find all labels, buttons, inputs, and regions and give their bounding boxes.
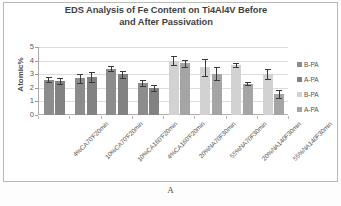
error-bar <box>243 47 253 115</box>
x-axis-tick-mark <box>38 116 39 119</box>
error-bar <box>106 47 116 115</box>
error-bar <box>55 47 65 115</box>
chart-legend: B-PAA-PAB-PAA-PA <box>297 58 339 118</box>
error-bar-line <box>279 90 280 98</box>
error-bar-line <box>122 71 123 78</box>
error-bar-cap-bottom <box>265 79 271 80</box>
x-axis-tick-mark <box>226 116 227 119</box>
error-bar <box>180 47 190 115</box>
x-axis-tick-mark <box>69 116 70 119</box>
error-bar-line <box>216 67 217 79</box>
y-axis-tick-label: 3 <box>20 70 34 78</box>
error-bar-cap-bottom <box>233 67 239 68</box>
error-bar-cap-bottom <box>120 78 126 79</box>
error-bar-line <box>185 60 186 67</box>
legend-swatch-icon <box>297 77 302 82</box>
error-bar-cap-top <box>265 69 271 70</box>
error-bar <box>149 47 159 115</box>
error-bar-cap-bottom <box>245 85 251 86</box>
legend-label: A-PA <box>304 76 319 83</box>
chart-title-line-2: and After Passivation <box>16 17 316 29</box>
error-bar <box>169 47 179 115</box>
figure-caption: A <box>0 185 341 195</box>
x-axis-tick-mark <box>288 116 289 119</box>
x-axis-tick-mark <box>101 116 102 119</box>
error-bar-cap-top <box>202 59 208 60</box>
legend-item: B-PA <box>297 58 339 71</box>
error-bar-cap-bottom <box>171 65 177 66</box>
error-bar <box>118 47 128 115</box>
error-bar-cap-top <box>120 71 126 72</box>
legend-swatch-icon <box>297 92 302 97</box>
y-axis-tick-label: 0 <box>20 111 34 119</box>
error-bar-cap-bottom <box>151 91 157 92</box>
error-bar <box>44 47 54 115</box>
legend-swatch-icon <box>297 62 302 67</box>
error-bar-cap-bottom <box>89 82 95 83</box>
chart-title-line-1: EDS Analysis of Fe Content on Ti4Al4V Be… <box>16 5 316 17</box>
error-bar <box>263 47 273 115</box>
error-bar <box>231 47 241 115</box>
error-bar-cap-top <box>245 82 251 83</box>
legend-swatch-icon <box>297 107 302 112</box>
legend-item: A-PA <box>297 103 339 116</box>
error-bar-cap-top <box>171 56 177 57</box>
error-bar <box>87 47 97 115</box>
error-bar-cap-bottom <box>140 86 146 87</box>
legend-label: B-PA <box>304 91 319 98</box>
error-bar-cap-bottom <box>276 98 282 99</box>
chart-title: EDS Analysis of Fe Content on Ti4Al4V Be… <box>16 5 316 28</box>
error-bar-cap-top <box>46 77 52 78</box>
error-bar-cap-top <box>276 90 282 91</box>
x-axis-tick-label: 4%CA70'F20min <box>71 120 109 158</box>
x-axis-tick-mark <box>194 116 195 119</box>
x-axis-tick-mark <box>163 116 164 119</box>
x-axis-tick-labels: 4%CA70'F20min10%CA70'F20min10%CA160'F20m… <box>38 116 290 182</box>
plot-inner <box>39 47 288 115</box>
error-bar-cap-bottom <box>182 67 188 68</box>
error-bar <box>75 47 85 115</box>
error-bar-cap-bottom <box>108 71 114 72</box>
error-bar-cap-bottom <box>214 80 220 81</box>
error-bar-cap-bottom <box>46 82 52 83</box>
figure-panel: EDS Analysis of Fe Content on Ti4Al4V Be… <box>0 0 341 206</box>
legend-item: A-PA <box>297 73 339 86</box>
y-axis-tick-label: 5 <box>20 43 34 51</box>
error-bar-cap-top <box>214 67 220 68</box>
error-bar <box>212 47 222 115</box>
error-bar-cap-top <box>77 74 83 75</box>
error-bar-line <box>173 56 174 66</box>
y-axis-tick-label: 2 <box>20 84 34 92</box>
error-bar <box>138 47 148 115</box>
error-bar-cap-bottom <box>77 83 83 84</box>
error-bar-cap-top <box>89 72 95 73</box>
error-bar-line <box>142 80 143 87</box>
x-axis-tick-mark <box>132 116 133 119</box>
y-axis-tick-label: 4 <box>20 57 34 65</box>
error-bar-cap-top <box>57 78 63 79</box>
error-bar-line <box>80 74 81 84</box>
x-axis-tick-mark <box>257 116 258 119</box>
legend-label: A-PA <box>304 106 319 113</box>
legend-item: B-PA <box>297 88 339 101</box>
error-bar-line <box>91 72 92 82</box>
legend-label: B-PA <box>304 61 319 68</box>
y-axis-tick-label: 1 <box>20 97 34 105</box>
error-bar-cap-top <box>108 66 114 67</box>
plot-area <box>38 47 288 115</box>
error-bar <box>200 47 210 115</box>
error-bar-cap-top <box>151 85 157 86</box>
error-bar-cap-top <box>233 63 239 64</box>
error-bar-line <box>267 69 268 79</box>
error-bar-cap-top <box>182 60 188 61</box>
error-bar <box>274 47 284 115</box>
error-bar-cap-top <box>140 80 146 81</box>
error-bar-cap-bottom <box>202 76 208 77</box>
error-bar-cap-bottom <box>57 84 63 85</box>
error-bar-line <box>205 59 206 75</box>
